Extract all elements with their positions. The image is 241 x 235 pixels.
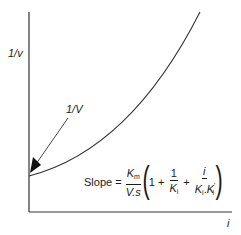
reciprocal-velocity-curve	[29, 12, 200, 176]
term-one: 1	[149, 176, 155, 188]
fraction-one-over-ki: 1 Ki	[169, 167, 178, 198]
intercept-arrow-line	[36, 118, 68, 164]
formula-prefix: Slope =	[84, 176, 122, 188]
fraction-i-over-ki-kip: i Ki.K'i	[195, 165, 214, 199]
intercept-label: 1/V	[66, 104, 83, 115]
right-paren: )	[215, 162, 222, 198]
y-axis-label: 1/v	[8, 48, 23, 59]
x-axis-label: i	[227, 218, 229, 229]
left-paren: (	[142, 162, 149, 198]
fraction-km-over-vs: Km V.s	[126, 167, 141, 198]
slope-formula: Slope = Km V.s ( 1 + 1 Ki + i Ki.K'i )	[84, 162, 222, 202]
